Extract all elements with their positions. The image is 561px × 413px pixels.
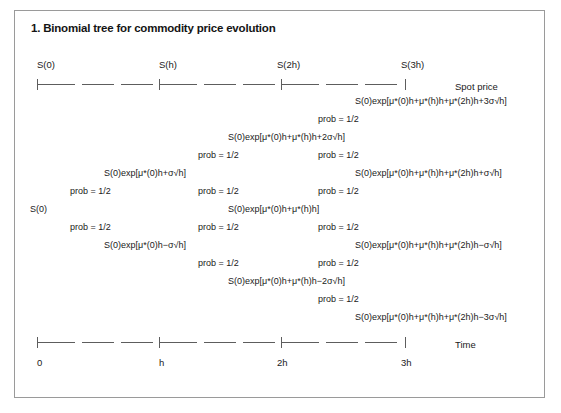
axis-segment [365, 342, 397, 343]
tree-node: S(0)exp[μ*(0)h+μ*(h)h+μ*(2h)h+σ√h] [355, 168, 502, 179]
time-label-h: h [159, 357, 164, 368]
transition-probability-label: prob = 1/2 [70, 222, 111, 233]
time-caption: Time [455, 339, 476, 350]
transition-probability-label: prob = 1/2 [318, 222, 359, 233]
axis-segment [121, 342, 153, 343]
transition-probability-label: prob = 1/2 [318, 294, 359, 305]
tree-node: S(0)exp[μ*(0)h+μ*(h)h+μ*(2h)h+3σ√h] [355, 96, 507, 107]
axis-segment [82, 342, 114, 343]
figure-panel: 1. Binomial tree for commodity price evo… [14, 10, 545, 398]
time-axis [37, 337, 427, 348]
axis-segment [243, 342, 275, 343]
tree-node: S(0)exp[μ*(0)h+σ√h] [104, 168, 186, 179]
transition-probability-label: prob = 1/2 [318, 114, 359, 125]
tree-node: S(0) [30, 204, 47, 215]
axis-segment [281, 342, 319, 343]
transition-probability-label: prob = 1/2 [198, 258, 239, 269]
tree-node: S(0)exp[μ*(0)h−σ√h] [104, 240, 186, 251]
transition-probability-label: prob = 1/2 [70, 186, 111, 197]
tree-node: S(0)exp[μ*(0)h+μ*(h)h+2σ√h] [228, 132, 345, 143]
tree-node: S(0)exp[μ*(0)h+μ*(h)h−2σ√h] [228, 276, 345, 287]
transition-probability-label: prob = 1/2 [198, 186, 239, 197]
axis-segment [159, 342, 197, 343]
tree-node: S(0)exp[μ*(0)h+μ*(h)h+μ*(2h)h−σ√h] [355, 240, 502, 251]
transition-probability-label: prob = 1/2 [318, 186, 359, 197]
transition-probability-label: prob = 1/2 [198, 150, 239, 161]
axis-segment [326, 342, 358, 343]
tree-node: S(0)exp[μ*(0)h+μ*(h)h] [228, 204, 319, 215]
time-label-3h: 3h [401, 357, 412, 368]
time-label-0: 0 [37, 357, 42, 368]
axis-segment [204, 342, 236, 343]
transition-probability-label: prob = 1/2 [318, 150, 359, 161]
transition-probability-label: prob = 1/2 [198, 222, 239, 233]
axis-tick-3h [405, 337, 406, 348]
tree-node: S(0)exp[μ*(0)h+μ*(h)h+μ*(2h)h−3σ√h] [355, 312, 507, 323]
time-label-2h: 2h [277, 357, 288, 368]
axis-segment [37, 342, 75, 343]
transition-probability-label: prob = 1/2 [318, 258, 359, 269]
